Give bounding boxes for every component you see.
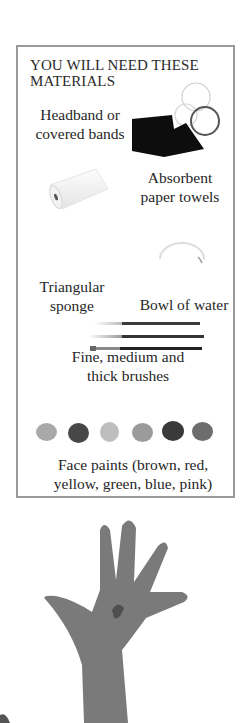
label-line: thick brushes (48, 366, 208, 385)
face-paints-icon (36, 421, 226, 443)
face-paints-label: Face paints (brown, red, yellow, green, … (38, 455, 228, 493)
paint-swatch-red (68, 423, 89, 443)
materials-panel: YOU WILL NEED THESE MATERIALS Headband o… (16, 45, 235, 498)
label-line: Headband or (24, 105, 136, 124)
label-line: Face paints (brown, red, (38, 455, 228, 474)
label-line: yellow, green, blue, pink) (38, 474, 228, 493)
bowl-icon (148, 227, 218, 277)
label-line: Triangular (32, 277, 112, 296)
headband-icon (124, 75, 228, 165)
label-line: paper towels (130, 187, 230, 206)
paint-swatch-green (132, 423, 153, 442)
paper-towel-label: Absorbent paper towels (130, 168, 230, 206)
label-line: sponge (32, 296, 112, 315)
bowl-label: Bowl of water (134, 295, 234, 314)
headband-label: Headband or covered bands (24, 105, 136, 143)
paint-swatch-pink (192, 422, 213, 441)
paint-swatch-yellow (100, 422, 119, 442)
brushes-label: Fine, medium and thick brushes (48, 347, 208, 385)
raised-hand-photo (0, 500, 245, 723)
label-line: Bowl of water (134, 295, 234, 314)
label-line: Fine, medium and (48, 347, 208, 366)
sponge-label: Triangular sponge (32, 277, 112, 315)
paint-swatch-blue (162, 421, 184, 441)
paper-towel-icon (46, 165, 116, 215)
label-line: Absorbent (130, 168, 230, 187)
paint-swatch-brown (36, 423, 57, 441)
label-line: covered bands (24, 124, 136, 143)
title-line-1: YOU WILL NEED THESE (30, 57, 199, 73)
